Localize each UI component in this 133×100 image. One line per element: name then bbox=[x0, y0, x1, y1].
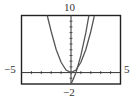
ymax-label: 10 bbox=[64, 2, 75, 13]
axes bbox=[22, 16, 121, 85]
xmin-label: −5 bbox=[4, 64, 16, 75]
xmax-label: 5 bbox=[124, 64, 130, 75]
ymin-label: −2 bbox=[63, 87, 75, 98]
graph-canvas bbox=[0, 0, 133, 100]
